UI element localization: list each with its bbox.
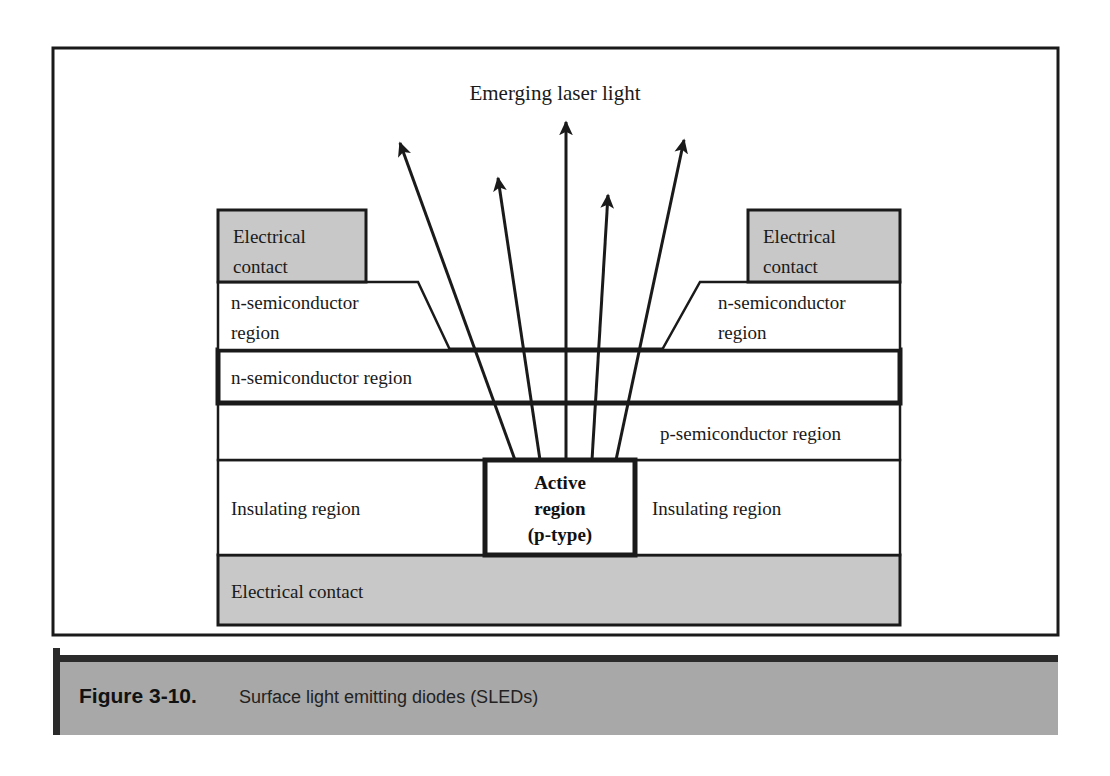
bottom-contact-label: Electrical contact — [231, 581, 364, 602]
caption-bar-left-rule — [53, 648, 60, 735]
p-semiconductor-band-label: p-semiconductor region — [660, 423, 841, 444]
figure-page: Emerging laser light Electrical contact … — [0, 0, 1110, 776]
sled-structure-diagram: Emerging laser light Electrical contact … — [0, 0, 1110, 776]
right-insulating-region-label: Insulating region — [652, 498, 782, 519]
top-right-contact-label-line2: contact — [763, 256, 819, 277]
diagram-title: Emerging laser light — [469, 81, 640, 105]
caption-figure-number: Figure 3-10. — [79, 684, 197, 707]
left-mesa-label-line1: n-semiconductor — [231, 292, 359, 313]
caption-bar — [53, 655, 1058, 735]
right-mesa-label-line1: n-semiconductor — [718, 292, 846, 313]
caption-description: Surface light emitting diodes (SLEDs) — [239, 687, 538, 707]
active-region-label-line2: region — [534, 498, 586, 519]
top-left-contact-label-line1: Electrical — [233, 226, 306, 247]
caption-bar-top-rule — [53, 655, 1058, 662]
n-semiconductor-band-label: n-semiconductor region — [231, 367, 412, 388]
top-left-contact-label-line2: contact — [233, 256, 289, 277]
right-mesa-label-line2: region — [718, 322, 767, 343]
left-mesa-label-line2: region — [231, 322, 280, 343]
active-region-label-line3: (p-type) — [528, 524, 592, 546]
left-insulating-region-label: Insulating region — [231, 498, 361, 519]
top-right-contact-label-line1: Electrical — [763, 226, 836, 247]
active-region-label-line1: Active — [534, 472, 586, 493]
